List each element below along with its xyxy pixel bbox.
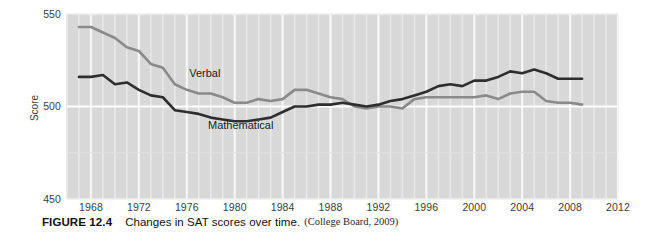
x-axis-tick-labels: 1968197219761980198419881992199620002004…	[79, 201, 630, 213]
x-tick-label: 1980	[223, 201, 247, 213]
x-tick-label: 1976	[175, 201, 199, 213]
y-tick-label: 550	[43, 8, 61, 20]
figure-container: 450500550 196819721976198019841988199219…	[0, 0, 653, 242]
x-tick-label: 2012	[606, 201, 630, 213]
caption-title: Changes in SAT scores over time.	[125, 216, 300, 228]
series-label-verbal: Verbal	[189, 67, 220, 79]
x-tick-label: 1972	[127, 201, 151, 213]
y-axis-tick-labels: 450500550	[43, 8, 61, 205]
x-tick-label: 1984	[271, 201, 295, 213]
x-tick-label: 1988	[319, 201, 343, 213]
x-tick-label: 1992	[367, 201, 391, 213]
y-axis-title-group: Score	[29, 95, 40, 122]
y-tick-label: 450	[43, 193, 61, 205]
series-label-mathematical: Mathematical	[208, 119, 273, 131]
x-tick-label: 2008	[558, 201, 582, 213]
caption-source: (College Board, 2009)	[304, 216, 398, 227]
x-tick-label: 2000	[462, 201, 486, 213]
x-tick-label: 1968	[79, 201, 103, 213]
sat-scores-line-chart: 450500550 196819721976198019841988199219…	[0, 0, 653, 242]
figure-caption: FIGURE 12.4 Changes in SAT scores over t…	[0, 216, 653, 242]
caption-figure-number: FIGURE 12.4	[42, 216, 112, 228]
y-axis-title: Score	[29, 95, 40, 122]
y-tick-label: 500	[43, 100, 61, 112]
x-tick-label: 1996	[414, 201, 438, 213]
x-tick-label: 2004	[510, 201, 534, 213]
